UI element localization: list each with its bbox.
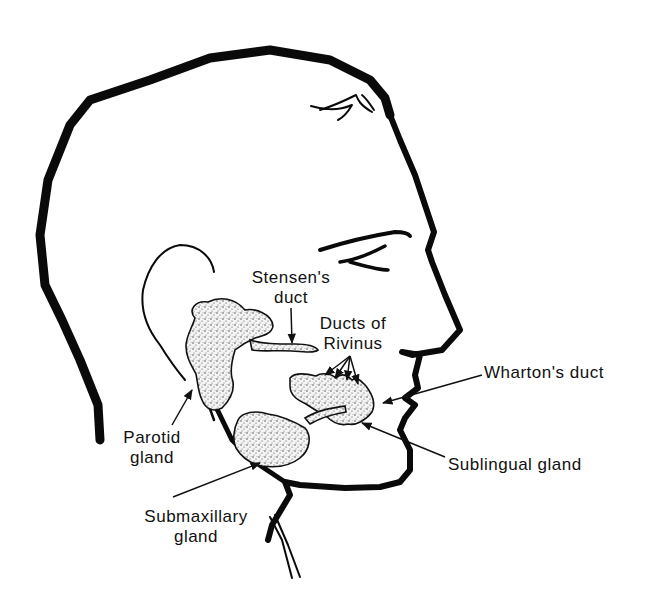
label-whartons-duct: Wharton's duct (484, 363, 604, 383)
label-submaxillary-gland-line1: Submaxillary (131, 507, 261, 527)
label-submaxillary-gland: Submaxillary gland (131, 507, 261, 547)
whartons-duct-leader (383, 375, 482, 403)
label-ducts-of-rivinus-line2: Rivinus (308, 334, 398, 354)
label-stensens-duct-line2: duct (241, 288, 341, 308)
sublingual-gland (290, 374, 374, 425)
label-parotid-gland-line1: Parotid (117, 428, 187, 448)
label-sublingual-gland-line1: Sublingual gland (448, 455, 582, 475)
label-ducts-of-rivinus-line1: Ducts of (308, 314, 398, 334)
label-sublingual-gland: Sublingual gland (448, 455, 582, 475)
label-stensens-duct: Stensen's duct (241, 268, 341, 308)
hair-stroke (311, 95, 374, 120)
label-submaxillary-gland-line2: gland (131, 527, 261, 547)
parotid-gland-leader (172, 390, 192, 425)
label-ducts-of-rivinus: Ducts of Rivinus (308, 314, 398, 354)
stensens-duct-leader (291, 308, 292, 343)
label-stensens-duct-line1: Stensen's (241, 268, 341, 288)
label-whartons-duct-line1: Wharton's duct (484, 363, 604, 383)
submaxillary-gland (234, 412, 309, 467)
label-parotid-gland: Parotid gland (117, 428, 187, 468)
submaxillary-gland-leader (173, 463, 260, 497)
rivinus-leader-1 (325, 356, 350, 375)
eye (340, 246, 388, 270)
salivary-glands-diagram: Stensen's duct Ducts of Rivinus Wharton'… (0, 0, 649, 614)
parotid-gland (186, 299, 273, 410)
eyebrow (320, 232, 410, 250)
neck-line (270, 515, 300, 578)
label-parotid-gland-line2: gland (117, 448, 187, 468)
